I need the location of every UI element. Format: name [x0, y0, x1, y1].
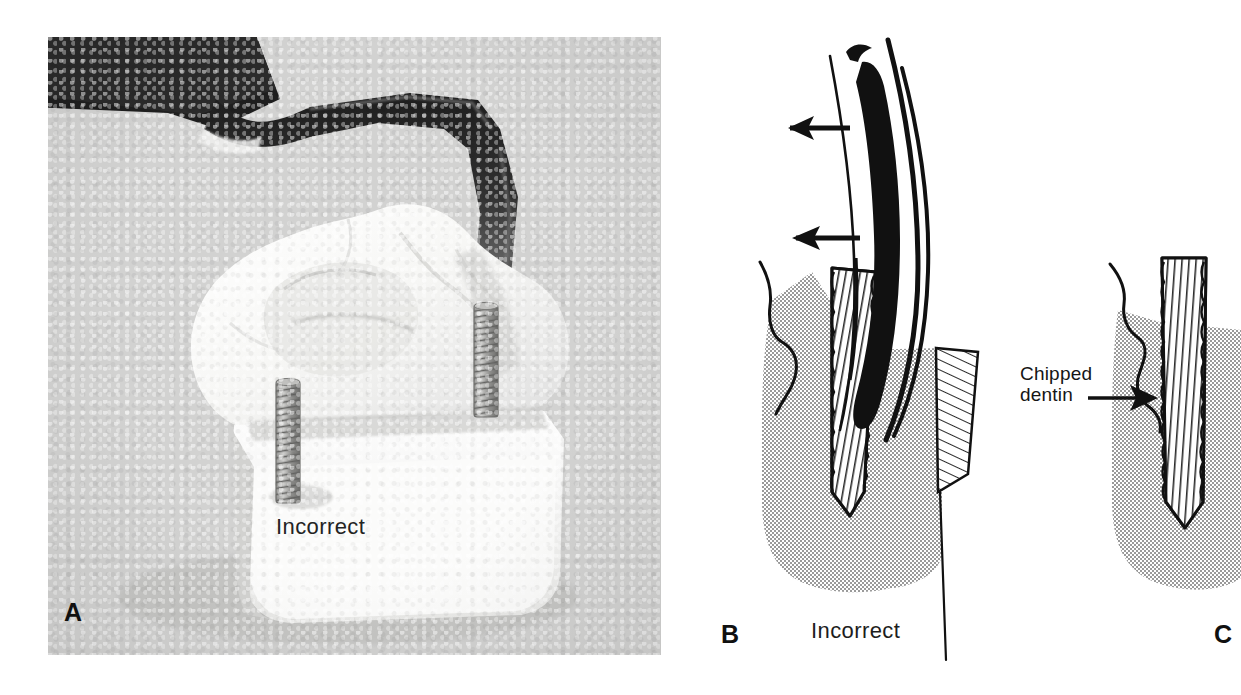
- lower-arrow: [792, 226, 860, 250]
- panel-c-diagram: [1010, 0, 1241, 695]
- panel-b: Incorrect B: [680, 0, 1010, 695]
- panel-b-label: B: [721, 620, 739, 649]
- panel-c: Chipped dentin C: [1010, 0, 1241, 695]
- panel-a: Incorrect A: [0, 0, 680, 695]
- panel-a-photo-svg: [48, 37, 661, 655]
- panel-a-photograph: [48, 37, 661, 655]
- panel-c-label: C: [1214, 620, 1232, 649]
- matrix-band-line-b: [940, 492, 946, 660]
- sectioned-wall-b: [936, 348, 978, 492]
- panel-a-caption: Incorrect: [276, 514, 365, 540]
- panel-b-caption: Incorrect: [811, 618, 900, 644]
- figure-root: Incorrect A: [0, 0, 1241, 695]
- panel-b-diagram: [680, 0, 1010, 695]
- chipped-dentin-annotation: Chipped dentin: [1020, 363, 1092, 405]
- panel-a-label: A: [64, 598, 83, 627]
- threaded-pin-c-icon: [1162, 258, 1207, 528]
